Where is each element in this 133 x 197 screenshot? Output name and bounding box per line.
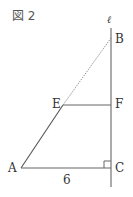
geometry-diagram — [0, 0, 133, 197]
line-l-label: ℓ — [107, 15, 111, 25]
point-C-label: C — [115, 162, 124, 174]
right-angle-marker — [104, 161, 111, 168]
point-F-label: F — [115, 98, 123, 110]
segment-EA — [21, 105, 63, 168]
point-E-label: E — [52, 98, 61, 110]
point-A-label: A — [8, 162, 17, 174]
point-B-label: B — [115, 33, 124, 45]
segment-BE-dotted — [63, 38, 111, 105]
length-AC-label: 6 — [63, 174, 71, 186]
